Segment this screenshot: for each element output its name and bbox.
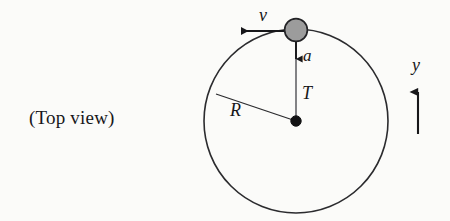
- top-view-caption: (Top view): [29, 108, 115, 127]
- ball: [285, 19, 308, 42]
- center-hub-dot: [291, 116, 301, 126]
- radius-line: [216, 94, 296, 121]
- radius-label: R: [230, 101, 241, 119]
- tension-label: T: [302, 84, 312, 102]
- physics-diagram-top-view: (Top view) v a T R y: [0, 0, 450, 221]
- y-axis-label: y: [412, 56, 420, 74]
- velocity-label: v: [259, 6, 267, 24]
- acceleration-label: a: [303, 47, 312, 64]
